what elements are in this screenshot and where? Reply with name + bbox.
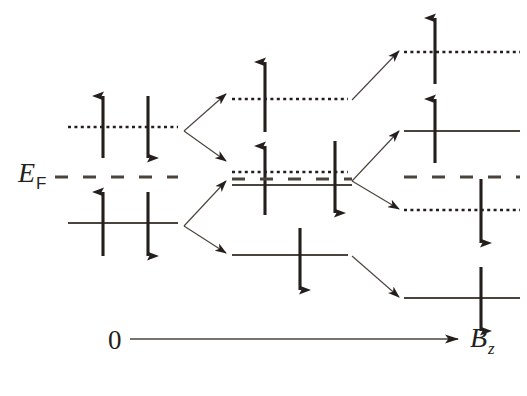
fermi-energy-symbol: E [18,157,35,188]
splitting-arrows-group [184,51,399,297]
magnetic-field-subscript: z [488,339,495,358]
split-arrow [184,226,226,253]
column-intermediate-field [232,62,352,290]
figure-canvas: EF 0 Bz [0,0,527,396]
split-arrow [352,256,399,297]
axis-origin-label: 0 [108,325,122,356]
fermi-energy-subscript: F [36,174,46,193]
fermi-energy-label: EF [18,157,47,194]
fermi-level-group [55,177,520,179]
split-arrow [352,131,399,181]
split-arrow [352,181,399,209]
energy-level-diagram [0,0,527,396]
energy-levels-group [68,18,520,331]
magnetic-field-symbol: B [470,322,487,353]
column-high-field [404,18,520,331]
magnetic-field-axis-label: Bz [470,322,495,359]
split-arrow [352,51,399,100]
split-arrow [184,94,226,131]
split-arrow [184,181,226,226]
split-arrow [184,131,226,161]
